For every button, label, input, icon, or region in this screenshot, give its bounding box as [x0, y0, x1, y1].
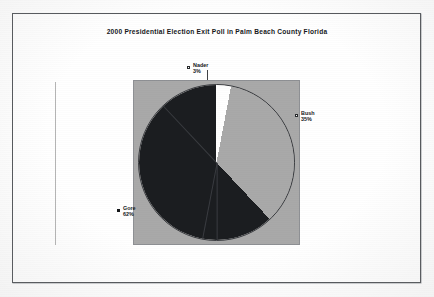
- slice-label-nader: Nader 3%: [193, 62, 208, 74]
- slice-label-nader-value: 3%: [193, 68, 208, 74]
- legend-marker-bush-icon: [295, 114, 298, 117]
- pie-circle: [138, 84, 295, 241]
- scanned-page: 2000 Presidential Election Exit Poll in …: [0, 0, 434, 297]
- pie-slice-divider: [216, 163, 217, 241]
- chart-title: 2000 Presidential Election Exit Poll in …: [0, 28, 434, 35]
- slice-label-bush: Bush 35%: [301, 110, 314, 122]
- pie-chart: [133, 80, 300, 245]
- slice-label-bush-value: 35%: [301, 116, 314, 122]
- slice-label-gore: Gore 62%: [123, 205, 136, 217]
- slice-label-gore-value: 62%: [123, 211, 136, 217]
- legend-marker-nader-icon: [187, 66, 190, 69]
- legend-marker-gore-icon: [117, 209, 120, 212]
